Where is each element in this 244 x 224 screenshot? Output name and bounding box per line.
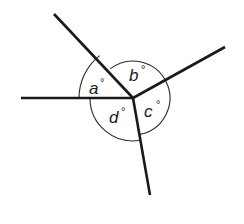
angle-a-label: a — [89, 79, 98, 98]
angle-c-label: c — [144, 102, 153, 121]
angle-b-degree: ° — [141, 63, 145, 75]
angle-diagram: a ° b ° c ° d ° — [0, 0, 244, 224]
angle-b-label: b — [129, 66, 138, 85]
angle-d-label: d — [109, 108, 119, 127]
angle-a-degree: ° — [100, 76, 104, 88]
angle-d-degree: ° — [121, 105, 125, 117]
angle-c-degree: ° — [156, 98, 160, 110]
ray-upper-right — [133, 47, 225, 98]
